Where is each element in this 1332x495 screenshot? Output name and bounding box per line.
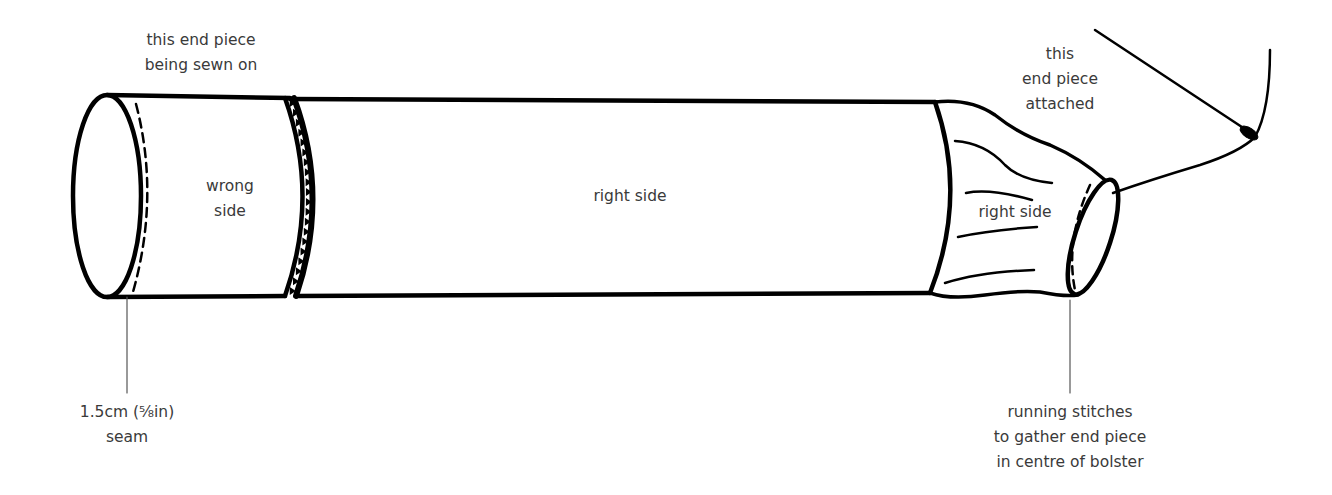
left-end-opening <box>73 95 141 297</box>
main-body-bottom <box>296 293 930 296</box>
left-end-piece-bottom <box>107 296 285 297</box>
label-right-side-end: right side <box>965 200 1065 225</box>
label-line: this <box>1005 42 1115 67</box>
label-line: right side <box>560 184 700 209</box>
label-line: to gather end piece <box>975 425 1165 450</box>
needle <box>1095 30 1254 135</box>
label-line: 1.5cm (⁵⁄₈in) <box>52 400 202 425</box>
label-line: side <box>180 199 280 224</box>
label-line: this end piece <box>126 28 276 53</box>
label-wrong-side: wrong side <box>180 174 280 224</box>
gather-fold-4 <box>945 270 1034 283</box>
label-line: attached <box>1005 92 1115 117</box>
label-line: in centre of bolster <box>975 450 1165 475</box>
label-right-side-main: right side <box>560 184 700 209</box>
label-line: end piece <box>1005 67 1115 92</box>
main-body-right-edge <box>930 102 950 293</box>
thread <box>1113 50 1270 193</box>
gather-fold-2 <box>966 192 1032 200</box>
gather-fold-1 <box>955 141 1052 183</box>
label-line: seam <box>52 425 202 450</box>
label-line: being sewn on <box>126 53 276 78</box>
left-end-piece-top <box>107 95 290 98</box>
label-end-piece-being-sewn: this end piece being sewn on <box>126 28 276 78</box>
label-line: running stitches <box>975 400 1165 425</box>
label-running-stitches: running stitches to gather end piece in … <box>975 400 1165 475</box>
gather-fold-3 <box>958 227 1037 237</box>
right-end-opening <box>1057 174 1128 299</box>
join-seam-outer <box>285 98 303 296</box>
label-end-piece-attached: this end piece attached <box>1005 42 1115 117</box>
right-end-piece-bottom <box>930 291 1078 297</box>
label-seam-allowance: 1.5cm (⁵⁄₈in) seam <box>52 400 202 450</box>
label-line: wrong <box>180 174 280 199</box>
label-line: right side <box>965 200 1065 225</box>
main-body-top <box>290 99 935 102</box>
